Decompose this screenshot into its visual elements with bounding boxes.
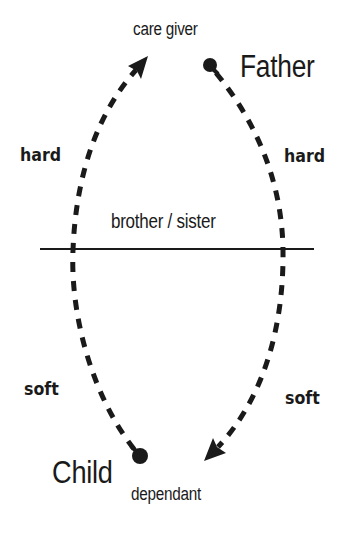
hard-left-label: hard [20, 146, 61, 164]
child-node-label: Child [52, 456, 113, 488]
left-dashed-edge [73, 70, 136, 449]
care-giver-label: care giver [133, 20, 198, 38]
soft-right-label: soft [285, 389, 320, 407]
brother-sister-label: brother / sister [111, 211, 216, 231]
dependant-label: dependant [131, 485, 201, 503]
arrowhead-down-icon [204, 438, 226, 461]
diagram-canvas: care giver Father hard hard brother / si… [0, 0, 344, 533]
hard-right-label: hard [284, 147, 325, 165]
right-dashed-edge [216, 73, 283, 447]
soft-left-label: soft [24, 380, 59, 398]
father-node-label: Father [240, 51, 315, 82]
